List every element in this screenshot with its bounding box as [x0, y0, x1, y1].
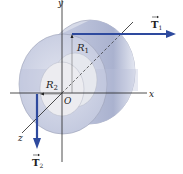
cylinder-diagram: y x z O R1 R2 T1 T2	[0, 0, 183, 174]
origin-label: O	[64, 96, 72, 106]
z-axis-back	[122, 22, 133, 33]
svg-text:T2: T2	[32, 157, 43, 169]
t2-arrowhead	[33, 138, 41, 149]
z-axis-label: z	[17, 133, 23, 143]
t1-arrowhead	[166, 30, 176, 38]
x-axis-label: x	[149, 89, 154, 99]
y-axis-label: y	[57, 0, 64, 8]
svg-text:T1: T1	[151, 19, 162, 31]
t2-vector-arrowhead-icon	[38, 154, 40, 156]
t1-vector-arrowhead-icon	[157, 16, 159, 18]
t1-label: T1	[151, 16, 162, 31]
t2-label: T2	[32, 154, 43, 169]
